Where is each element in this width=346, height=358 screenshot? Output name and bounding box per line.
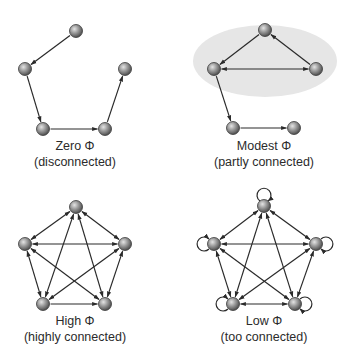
bidirectional-edge xyxy=(31,211,70,239)
network-node xyxy=(208,238,221,251)
panel-subtitle: (highly connected) xyxy=(0,330,155,345)
network-node xyxy=(37,298,50,311)
panel-zero xyxy=(19,25,132,136)
bidirectional-edge xyxy=(78,214,103,297)
network-node xyxy=(288,122,301,135)
directed-edge xyxy=(107,76,122,122)
network-node xyxy=(208,63,221,76)
bidirectional-edge xyxy=(270,210,310,239)
network-node xyxy=(70,25,83,38)
panel-subtitle: (too connected) xyxy=(184,330,344,345)
network-node xyxy=(19,63,32,76)
network-node xyxy=(227,298,240,311)
network-node xyxy=(258,200,271,213)
bidirectional-edge xyxy=(31,249,99,300)
panel-modest xyxy=(193,24,337,135)
panel-title: Modest Φ xyxy=(184,139,344,154)
bidirectional-edge xyxy=(266,213,292,297)
bidirectional-edge xyxy=(297,251,313,297)
panel-title: Low Φ xyxy=(184,314,344,329)
network-node xyxy=(310,238,323,251)
network-node xyxy=(259,24,272,37)
self-loop-edge xyxy=(257,188,271,201)
network-node xyxy=(310,63,323,76)
network-node xyxy=(119,63,132,76)
network-node xyxy=(70,201,83,214)
bidirectional-edge xyxy=(82,212,119,240)
network-node xyxy=(37,123,50,136)
directed-edge xyxy=(31,35,70,64)
bidirectional-edge xyxy=(235,213,261,297)
bidirectional-edge xyxy=(107,251,122,297)
panel-subtitle: (partly connected) xyxy=(184,155,344,170)
network-node xyxy=(99,298,112,311)
bidirectional-edge xyxy=(27,251,41,297)
panel-high xyxy=(19,201,132,311)
network-node xyxy=(119,238,132,251)
panel-low xyxy=(197,188,333,311)
bidirectional-edge xyxy=(220,248,289,299)
network-node xyxy=(289,298,302,311)
panel-title: High Φ xyxy=(0,314,155,329)
network-node xyxy=(99,123,112,136)
network-node xyxy=(19,238,32,251)
bidirectional-edge xyxy=(220,211,258,240)
panel-subtitle: (disconnected) xyxy=(0,155,155,170)
directed-edge xyxy=(27,76,41,122)
bidirectional-edge xyxy=(216,251,230,297)
network-node xyxy=(227,122,240,135)
panel-title: Zero Φ xyxy=(0,139,155,154)
phi-diagram xyxy=(0,0,346,358)
